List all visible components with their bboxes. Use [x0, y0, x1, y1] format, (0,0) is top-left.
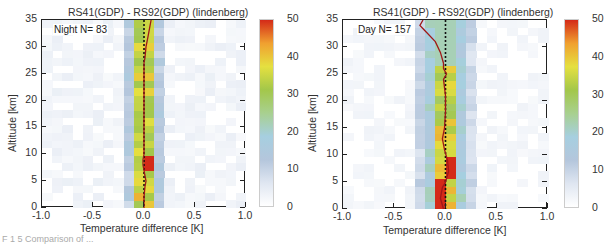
night-panel: RS41(GDP) - RS92(GDP) (lindenberg) Night…: [0, 0, 300, 241]
y-tick-mark: [542, 19, 547, 20]
y-tick-label: 30: [15, 39, 37, 51]
y-tick-mark: [240, 100, 245, 101]
y-tick-label: 5: [316, 174, 338, 186]
x-tick-mark: [143, 202, 144, 207]
y-tick-mark: [542, 127, 547, 128]
y-tick-mark: [41, 100, 46, 101]
y-tick-mark: [342, 154, 347, 155]
colorbar-tick-label: 40: [592, 50, 604, 62]
y-tick-mark: [542, 181, 547, 182]
y-tick-label: 30: [316, 39, 338, 51]
y-tick-label: 15: [316, 120, 338, 132]
plot-title: RS41(GDP) - RS92(GDP) (lindenberg): [68, 6, 248, 18]
mean-profile-line: [420, 20, 449, 209]
y-tick-label: 35: [316, 12, 338, 24]
y-tick-mark: [41, 180, 46, 181]
colorbar-tick-label: 50: [592, 12, 604, 24]
y-tick-mark: [240, 180, 245, 181]
y-tick-mark: [41, 207, 46, 208]
y-tick-mark: [240, 19, 245, 20]
colorbar: [564, 19, 579, 208]
y-tick-label: 15: [15, 119, 37, 131]
profile-overlay: [42, 20, 246, 208]
y-tick-mark: [342, 19, 347, 20]
y-tick-mark: [542, 208, 547, 209]
x-tick-label: -0.5: [378, 210, 408, 222]
colorbar-tick-label: 20: [592, 125, 604, 137]
y-tick-mark: [342, 73, 347, 74]
x-tick-mark: [342, 203, 343, 208]
plot-area: Day N= 157: [342, 19, 547, 208]
y-tick-label: 10: [15, 146, 37, 158]
y-tick-mark: [240, 73, 245, 74]
colorbar-tick-label: 50: [287, 12, 299, 24]
y-tick-mark: [240, 46, 245, 47]
y-tick-mark: [240, 207, 245, 208]
y-tick-mark: [41, 73, 46, 74]
colorbar-tick-label: 30: [592, 88, 604, 100]
y-tick-mark: [542, 100, 547, 101]
y-tick-mark: [542, 154, 547, 155]
x-axis-label: Temperature difference [K]: [80, 222, 204, 234]
plot-title: RS41(GDP) - RS92(GDP) (lindenberg): [373, 6, 553, 18]
x-tick-mark: [445, 203, 446, 208]
y-tick-mark: [542, 46, 547, 47]
colorbar-tick-label: 30: [287, 87, 299, 99]
y-axis-label: Altitude [km]: [6, 94, 18, 152]
colorbar-tick-label: 40: [287, 50, 299, 62]
x-tick-mark: [194, 202, 195, 207]
x-tick-label: 0.0: [128, 209, 158, 221]
y-tick-mark: [342, 46, 347, 47]
x-tick-label: -1.0: [327, 210, 357, 222]
x-tick-mark: [496, 203, 497, 208]
y-tick-label: 5: [15, 173, 37, 185]
x-tick-label: 1.0: [532, 210, 562, 222]
x-tick-mark: [245, 202, 246, 207]
x-tick-label: 0.5: [481, 210, 511, 222]
y-tick-mark: [41, 153, 46, 154]
profile-overlay: [343, 20, 548, 209]
x-tick-mark: [41, 202, 42, 207]
y-tick-mark: [240, 153, 245, 154]
y-tick-mark: [41, 19, 46, 20]
colorbar-tick-label: 20: [287, 125, 299, 137]
y-tick-label: 20: [316, 93, 338, 105]
x-tick-label: 1.0: [230, 209, 260, 221]
colorbar-tick-label: 10: [592, 163, 604, 175]
x-tick-mark: [393, 203, 394, 208]
x-tick-mark: [547, 203, 548, 208]
y-tick-mark: [342, 127, 347, 128]
plot-area: Night N= 83: [41, 19, 245, 207]
colorbar-tick-label: 0: [287, 200, 293, 212]
x-tick-label: 0.5: [179, 209, 209, 221]
x-tick-label: -0.5: [77, 209, 107, 221]
colorbar: [259, 19, 274, 207]
y-tick-label: 20: [15, 93, 37, 105]
y-tick-label: 25: [15, 66, 37, 78]
y-tick-mark: [342, 208, 347, 209]
y-tick-mark: [41, 46, 46, 47]
colorbar-tick-label: 0: [592, 201, 598, 213]
y-tick-mark: [240, 126, 245, 127]
y-tick-label: 25: [316, 66, 338, 78]
figure-caption-fragment: F 1 5 Comparison of ...: [2, 234, 94, 244]
colorbar-tick-label: 10: [287, 162, 299, 174]
legend-label: Night N= 83: [53, 24, 108, 35]
x-tick-label: 0.0: [430, 210, 460, 222]
y-tick-label: 35: [15, 12, 37, 24]
x-tick-label: -1.0: [26, 209, 56, 221]
y-tick-label: 10: [316, 147, 338, 159]
y-tick-mark: [41, 126, 46, 127]
y-axis-label: Altitude [km]: [306, 94, 318, 152]
y-tick-mark: [342, 100, 347, 101]
x-axis-label: Temperature difference [K]: [383, 224, 507, 236]
legend-label: Day N= 157: [357, 24, 412, 35]
x-tick-mark: [92, 202, 93, 207]
y-tick-mark: [542, 73, 547, 74]
day-panel: RS41(GDP) - RS92(GDP) (lindenberg) Day N…: [300, 0, 600, 241]
y-tick-mark: [342, 181, 347, 182]
